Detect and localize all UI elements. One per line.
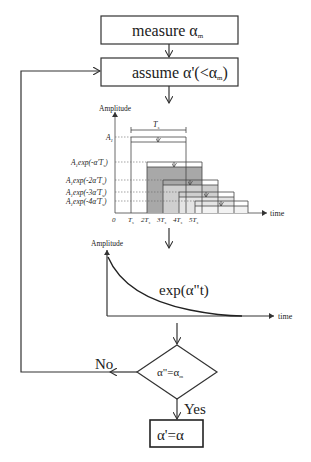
assume-step-label: assume α'(<αm) bbox=[132, 64, 228, 82]
pulse-y-axis-label: Amplitude bbox=[99, 104, 132, 113]
yes-branch: Yes bbox=[177, 399, 206, 419]
decay-curve-label: exp(α"t) bbox=[159, 282, 209, 299]
tick-Ts: Ts bbox=[128, 216, 134, 225]
shade-5 bbox=[195, 206, 248, 213]
no-branch: No bbox=[21, 71, 137, 372]
yes-label: Yes bbox=[184, 401, 206, 417]
tick-2Ts: 2Ts bbox=[141, 216, 150, 225]
tick-0: 0 bbox=[112, 216, 116, 224]
pulse-width-label: Ts bbox=[153, 120, 159, 130]
result-label: α'=α bbox=[157, 427, 184, 443]
tick-4Ts: 4Ts bbox=[173, 216, 182, 225]
decay-chart: Amplitude time exp(α"t) bbox=[91, 239, 293, 321]
tick-5Ts: 5Ts bbox=[189, 216, 198, 225]
result-box: α'=α bbox=[150, 420, 203, 447]
decision-label: α"=αm bbox=[157, 366, 183, 379]
pulse-x-axis-label: time bbox=[270, 209, 285, 218]
flowchart-diagram: measure αm assume α'(<αm) Amplitude time bbox=[0, 0, 311, 462]
measure-step-label: measure αm bbox=[132, 22, 204, 40]
decay-y-axis-label: Amplitude bbox=[91, 239, 124, 248]
tick-3Ts: 3Ts bbox=[156, 216, 166, 225]
level-A1: A1 bbox=[105, 133, 113, 143]
level-2: A1exp(-2α'Ts) bbox=[65, 176, 107, 186]
pulse-chart: Amplitude time bbox=[65, 104, 285, 225]
shade-4 bbox=[179, 197, 195, 213]
decision-diamond: α"=αm bbox=[137, 345, 217, 399]
shade-3 bbox=[163, 185, 179, 213]
no-label: No bbox=[95, 356, 113, 372]
shade-2 bbox=[147, 167, 163, 213]
level-4: A1exp(-4α'Ts) bbox=[65, 197, 107, 207]
measure-step-box: measure αm bbox=[101, 16, 238, 44]
decay-x-axis-label: time bbox=[278, 312, 293, 321]
assume-step-box: assume α'(<αm) bbox=[101, 58, 238, 86]
level-1: A1exp(-α'Ts) bbox=[70, 158, 108, 168]
